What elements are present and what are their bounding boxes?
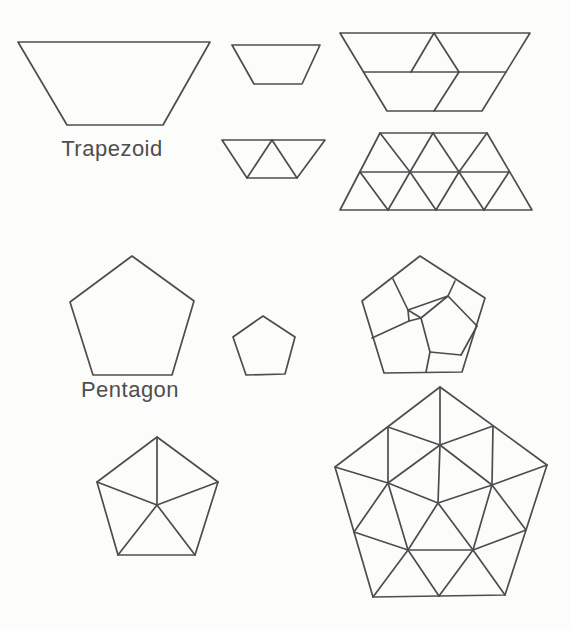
pentagon-twenty-triangles-segment bbox=[373, 550, 408, 597]
pentagon-twenty-triangles-segment bbox=[354, 532, 408, 550]
pentagon-five-triangles bbox=[97, 437, 218, 555]
trapezoid-five-pieces-segment bbox=[434, 33, 459, 72]
trapezoid-three-triangles-segment bbox=[272, 140, 297, 178]
pentagon-six-pieces-segment bbox=[426, 352, 430, 372]
trapezoid-twelve-triangles-segment bbox=[436, 172, 459, 210]
pentagon-twenty-triangles-segment bbox=[438, 503, 473, 550]
pentagon-plain-large-outline bbox=[70, 256, 194, 375]
pentagon-twenty-triangles-outline bbox=[335, 387, 547, 597]
pentagon-five-triangles-segment bbox=[157, 505, 195, 555]
pentagon-twenty-triangles-segment bbox=[388, 427, 440, 445]
trapezoid-twelve-triangles bbox=[340, 133, 532, 210]
trapezoid-twelve-triangles-segment bbox=[484, 172, 509, 210]
pentagon-twenty-triangles-segment bbox=[388, 445, 440, 483]
trapezoid-three-triangles bbox=[222, 140, 325, 178]
trapezoid-twelve-triangles-segment bbox=[459, 133, 487, 172]
pentagon-twenty-triangles-segment bbox=[335, 467, 388, 483]
pentagon-twenty-triangles-segment bbox=[438, 485, 492, 503]
pentagon-six-pieces-segment bbox=[421, 318, 430, 352]
pentagon-six-pieces-segment bbox=[448, 281, 455, 296]
shapes-diagram bbox=[0, 0, 570, 629]
trapezoid-label: Trapezoid bbox=[42, 136, 182, 162]
pentagon-plain-small-outline bbox=[233, 316, 295, 375]
pentagon-twenty-triangles-segment bbox=[492, 485, 526, 530]
pentagon-twenty-triangles-segment bbox=[492, 465, 547, 485]
trapezoid-plain-small-outline bbox=[232, 45, 320, 84]
pentagon-label: Pentagon bbox=[60, 377, 200, 403]
pentagon-six-pieces-segment bbox=[409, 318, 421, 321]
pentagon-six-pieces-segment bbox=[408, 310, 409, 321]
pentagon-plain-small bbox=[233, 316, 295, 375]
pentagon-six-pieces-segment bbox=[408, 296, 448, 310]
pentagon-twenty-triangles-segment bbox=[388, 483, 438, 503]
trapezoid-twelve-triangles-segment bbox=[410, 172, 436, 210]
trapezoid-twelve-triangles-segment bbox=[433, 133, 459, 172]
trapezoid-plain-small bbox=[232, 45, 320, 84]
trapezoid-three-triangles-outline bbox=[222, 140, 325, 178]
pentagon-twenty-triangles-segment bbox=[473, 550, 505, 595]
pentagon-six-pieces-segment bbox=[448, 296, 477, 326]
trapezoid-twelve-triangles-segment bbox=[410, 133, 433, 172]
trapezoid-five-pieces-segment bbox=[411, 33, 434, 72]
pentagon-twenty-triangles-segment bbox=[440, 445, 492, 485]
pentagon-five-triangles-segment bbox=[118, 505, 157, 555]
pentagon-twenty-triangles-segment bbox=[439, 550, 473, 596]
pentagon-plain-large bbox=[70, 256, 194, 375]
trapezoid-twelve-triangles-segment bbox=[459, 172, 484, 210]
pentagon-twenty-triangles-segment bbox=[473, 485, 492, 550]
pentagon-twenty-triangles-segment bbox=[408, 550, 439, 596]
pentagon-twenty-triangles-segment bbox=[492, 426, 493, 485]
pentagon-six-pieces-segment bbox=[372, 321, 409, 338]
trapezoid-plain-large bbox=[18, 42, 210, 125]
trapezoid-five-pieces-segment bbox=[434, 72, 459, 111]
scanned-diagram-page: Trapezoid Pentagon bbox=[0, 0, 570, 629]
pentagon-six-pieces-segment bbox=[408, 310, 421, 318]
trapezoid-twelve-triangles-segment bbox=[360, 172, 388, 210]
trapezoid-twelve-triangles-segment bbox=[380, 133, 410, 172]
pentagon-twenty-triangles-segment bbox=[440, 426, 493, 445]
trapezoid-three-triangles-segment bbox=[247, 140, 272, 178]
pentagon-twenty-triangles-segment bbox=[438, 445, 440, 503]
pentagon-six-pieces-segment bbox=[393, 279, 408, 310]
pentagon-twenty-triangles-segment bbox=[354, 483, 388, 532]
pentagon-five-triangles-segment bbox=[97, 482, 157, 505]
pentagon-twenty-triangles-segment bbox=[473, 530, 526, 550]
trapezoid-five-pieces bbox=[340, 33, 530, 111]
pentagon-twenty-triangles bbox=[335, 387, 547, 597]
pentagon-six-pieces-segment bbox=[430, 352, 461, 355]
trapezoid-twelve-triangles-segment bbox=[388, 172, 410, 210]
trapezoid-plain-large-outline bbox=[18, 42, 210, 125]
pentagon-twenty-triangles-segment bbox=[408, 503, 438, 550]
pentagon-twenty-triangles-segment bbox=[388, 483, 408, 550]
pentagon-six-pieces bbox=[362, 256, 485, 373]
pentagon-six-pieces-segment bbox=[421, 296, 448, 318]
pentagon-five-triangles-segment bbox=[157, 482, 218, 505]
